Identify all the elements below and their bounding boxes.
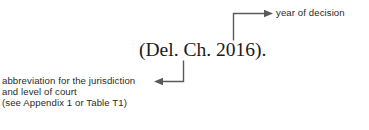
year-arrowhead <box>264 10 273 17</box>
citation-text: (Del. Ch. 2016). <box>139 39 266 61</box>
annotation-jurisdiction-line-1: abbreviation for the jurisdiction <box>2 75 135 86</box>
annotation-year-of-decision: year of decision <box>276 7 345 18</box>
annotation-jurisdiction-and-court: abbreviation for the jurisdiction and le… <box>2 75 135 108</box>
annotation-jurisdiction-line-3: (see Appendix 1 or Table T1) <box>2 97 135 108</box>
court-arrowhead <box>154 78 163 85</box>
year-leader-line <box>234 10 274 41</box>
citation-annotation-figure: (Del. Ch. 2016). year of decision abbrev… <box>0 0 369 130</box>
leader-lines-group <box>0 0 369 130</box>
annotation-jurisdiction-line-2: and level of court <box>2 86 135 97</box>
court-leader-line <box>154 61 184 86</box>
